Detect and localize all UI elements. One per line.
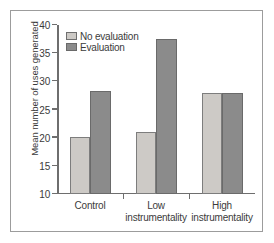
y-tick-label-30: 30 <box>39 76 50 87</box>
bar-low-instrumentality-evaluation <box>156 39 177 194</box>
y-tick-10 <box>52 193 57 194</box>
y-tick-label-20: 20 <box>39 132 50 143</box>
x-label-high: Highinstrumentality <box>177 200 267 223</box>
y-tick-35 <box>52 52 57 53</box>
y-tick-label-10: 10 <box>39 189 50 200</box>
y-tick-label-15: 15 <box>39 160 50 171</box>
y-tick-30 <box>52 80 57 81</box>
y-axis-title: Mean number of uses generated <box>29 14 40 164</box>
x-label-line1: Control <box>75 200 106 211</box>
x-label-line2: instrumentality <box>177 212 267 224</box>
y-tick-label-40: 40 <box>39 20 50 31</box>
y-tick-40 <box>52 24 57 25</box>
y-tick-25 <box>52 108 57 109</box>
x-tick-2 <box>189 194 190 199</box>
y-tick-label-35: 35 <box>39 48 50 59</box>
x-label-line1: High <box>212 200 232 211</box>
bar-low-instrumentality-no-evaluation <box>136 132 157 194</box>
figure-panel: Mean number of uses generated No evaluat… <box>10 10 263 232</box>
bar-high-instrumentality-no-evaluation <box>202 93 223 194</box>
y-axis-line <box>57 25 59 194</box>
bar-control-evaluation <box>90 91 111 194</box>
plot-area: 10152025303540 <box>57 25 255 194</box>
bar-control-no-evaluation <box>70 137 91 194</box>
x-label-line1: Low <box>147 200 165 211</box>
x-tick-1 <box>123 194 124 199</box>
bar-high-instrumentality-evaluation <box>222 93 243 194</box>
y-tick-label-25: 25 <box>39 104 50 115</box>
y-tick-15 <box>52 165 57 166</box>
y-tick-20 <box>52 136 57 137</box>
